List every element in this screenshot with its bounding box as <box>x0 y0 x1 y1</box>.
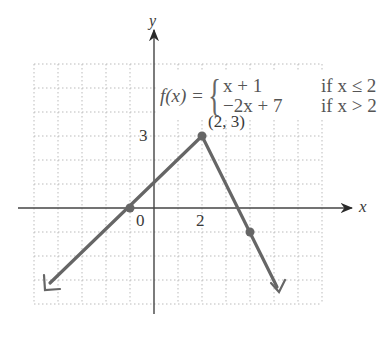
y-tick-3: 3 <box>139 126 148 146</box>
case2-expression: −2x + 7 <box>223 96 321 116</box>
case2-condition: if x > 2 <box>321 96 377 116</box>
case1-expression: x + 1 <box>223 76 321 96</box>
piece-minus-2x-plus-7 <box>202 136 277 287</box>
piecewise-formula: f(x) = { x + 1 if x ≤ 2 −2x + 7 if x > 2 <box>160 74 377 118</box>
point-vertex <box>198 132 207 141</box>
piecewise-graph <box>0 0 392 339</box>
case1-condition: if x ≤ 2 <box>321 76 376 96</box>
formula-cases: x + 1 if x ≤ 2 −2x + 7 if x > 2 <box>223 76 377 116</box>
x-tick-2: 2 <box>196 211 205 231</box>
case-row-1: x + 1 if x ≤ 2 <box>223 76 377 96</box>
x-axis-label: x <box>359 197 367 217</box>
case-row-2: −2x + 7 if x > 2 <box>223 96 377 116</box>
function-graph <box>44 136 285 292</box>
point-4-neg1 <box>246 228 255 237</box>
origin-label: 0 <box>136 211 145 231</box>
y-axis-label: y <box>149 12 156 30</box>
brace-icon: { <box>208 76 221 116</box>
point-x-intercept <box>126 204 135 213</box>
formula-lhs: f(x) = <box>160 85 204 107</box>
